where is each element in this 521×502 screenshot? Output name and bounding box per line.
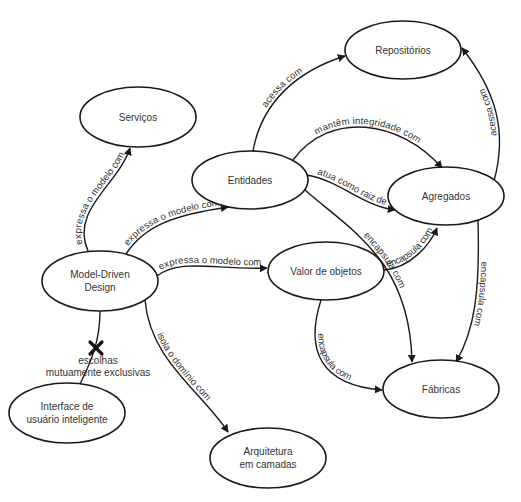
node-label: Interface de bbox=[41, 401, 94, 412]
node-label: Model-Driven bbox=[70, 269, 129, 280]
concept-map-diagram: expressa o modelo comexpressa o modelo c… bbox=[0, 0, 521, 502]
node-model-driven-design: Model-DrivenDesign bbox=[42, 251, 158, 311]
edge-model-driven-design-to-arquitetura-camadas: isola o domínio com bbox=[145, 300, 228, 432]
node-arquitetura-camadas: Arquiteturaem camadas bbox=[210, 428, 326, 488]
edge-entidades-to-repositorios: acessa com bbox=[253, 56, 345, 151]
edge-line bbox=[157, 266, 267, 276]
node-label: Arquitetura bbox=[244, 446, 293, 457]
node-interface-usuario: Interface deusuário inteligente bbox=[9, 383, 125, 443]
node-agregados: Agregados bbox=[388, 167, 504, 225]
node-label: Agregados bbox=[422, 191, 470, 202]
node-label: em camadas bbox=[239, 459, 296, 470]
node-entidades: Entidades bbox=[192, 151, 308, 209]
edge-label: expressa o modelo com bbox=[72, 150, 126, 246]
edge-label: encapsula com bbox=[385, 225, 435, 269]
nodes-layer: ServiçosRepositóriosEntidadesAgregadosMo… bbox=[9, 21, 504, 488]
node-label: usuário inteligente bbox=[26, 414, 108, 425]
edge-agregados-to-repositorios: acessa com bbox=[462, 48, 500, 181]
annotation-label: mutuamente exclusivas bbox=[46, 367, 151, 378]
edge-line bbox=[456, 221, 478, 362]
edge-label: isola o domínio com bbox=[155, 331, 214, 403]
edge-model-driven-design-to-valor-de-objetos: expressa o modelo com bbox=[156, 254, 267, 276]
edge-label: encapsula com bbox=[472, 261, 490, 327]
node-servicos: Serviços bbox=[80, 87, 196, 147]
edge-label: atua como raiz de bbox=[316, 166, 388, 207]
edge-model-driven-design-to-entidades: expressa o modelo com bbox=[121, 196, 228, 254]
edge-entidades-to-agregados: atua como raiz de bbox=[306, 166, 395, 210]
annotation-label: escolhas bbox=[78, 355, 117, 366]
node-fabricas: Fábricas bbox=[383, 360, 499, 418]
edge-agregados-to-fabricas: encapsula com bbox=[456, 221, 490, 362]
edge-valor-de-objetos-to-agregados: encapsula com bbox=[384, 225, 437, 270]
edge-label: expressa o modelo com bbox=[121, 196, 220, 247]
node-label: Serviços bbox=[119, 112, 157, 123]
edge-line bbox=[293, 127, 442, 168]
node-repositorios: Repositórios bbox=[345, 21, 461, 79]
node-label: Valor de objetos bbox=[290, 266, 362, 277]
edge-model-driven-design-to-servicos: expressa o modelo com bbox=[72, 148, 130, 251]
node-label: Repositórios bbox=[375, 45, 431, 56]
annotations-layer: escolhasmutuamente exclusivas bbox=[46, 342, 151, 378]
node-ellipse bbox=[210, 428, 326, 488]
annotation-mutually-exclusive: escolhasmutuamente exclusivas bbox=[46, 342, 151, 378]
node-label: Design bbox=[84, 282, 115, 293]
edge-label: acessa com bbox=[476, 87, 499, 136]
node-label: Entidades bbox=[228, 175, 272, 186]
node-ellipse bbox=[9, 383, 125, 443]
node-ellipse bbox=[42, 251, 158, 311]
edge-entidades-to-agregados: mantêm integridade com bbox=[293, 115, 442, 168]
node-valor-de-objetos: Valor de objetos bbox=[268, 242, 384, 300]
node-label: Fábricas bbox=[422, 384, 460, 395]
edge-label: acessa com bbox=[259, 64, 304, 109]
edge-valor-de-objetos-to-fabricas: encapsula com bbox=[315, 300, 382, 390]
